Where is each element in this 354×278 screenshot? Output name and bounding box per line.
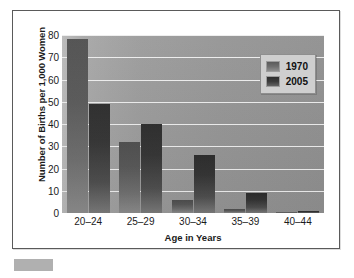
plot-area: 1970 2005	[62, 35, 324, 213]
x-tick-label: 30–34	[179, 216, 207, 227]
bar-group	[172, 35, 215, 213]
y-axis-tick-labels: 01020304050607080	[39, 35, 59, 213]
y-tick-label: 30	[39, 141, 59, 152]
legend: 1970 2005	[260, 54, 316, 94]
legend-swatch-1970-icon	[266, 61, 280, 72]
bar-2005-25–29	[141, 124, 162, 213]
bar-1970-30–34	[172, 200, 193, 213]
y-tick-label: 60	[39, 74, 59, 85]
bar-1970-20–24	[67, 39, 88, 213]
y-tick-label: 50	[39, 96, 59, 107]
y-tick-label: 0	[39, 208, 59, 219]
y-tick-label: 80	[39, 30, 59, 41]
x-tick-label: 25–29	[127, 216, 155, 227]
gray-block	[14, 259, 53, 271]
x-tick-label: 40–44	[284, 216, 312, 227]
y-tick-label: 40	[39, 119, 59, 130]
legend-item-2005: 2005	[266, 74, 308, 89]
bar-group	[67, 35, 110, 213]
x-axis-title: Age in Years	[62, 232, 324, 243]
x-tick-label: 20–24	[74, 216, 102, 227]
legend-label-1970: 1970	[286, 61, 308, 72]
bar-2005-20–24	[89, 104, 110, 213]
x-axis-tick-labels: 20–2425–2930–3435–3940–44	[62, 216, 324, 230]
bar-1970-25–29	[119, 142, 140, 213]
legend-label-2005: 2005	[286, 76, 308, 87]
y-tick-label: 10	[39, 185, 59, 196]
bar-2005-30–34	[194, 155, 215, 213]
bar-1970-35–39	[224, 209, 245, 213]
x-tick-label: 35–39	[231, 216, 259, 227]
bar-2005-40–44	[298, 211, 319, 213]
bar-2005-35–39	[246, 193, 267, 213]
legend-swatch-2005-icon	[266, 76, 280, 87]
legend-item-1970: 1970	[266, 59, 308, 74]
bar-group	[119, 35, 162, 213]
y-tick-label: 70	[39, 52, 59, 63]
chart-page: Number of Births per 1,000 Women 0102030…	[0, 0, 354, 278]
y-tick-label: 20	[39, 163, 59, 174]
figure-card: Number of Births per 1,000 Women 0102030…	[12, 10, 340, 249]
bar-1970-40–44	[276, 212, 297, 213]
